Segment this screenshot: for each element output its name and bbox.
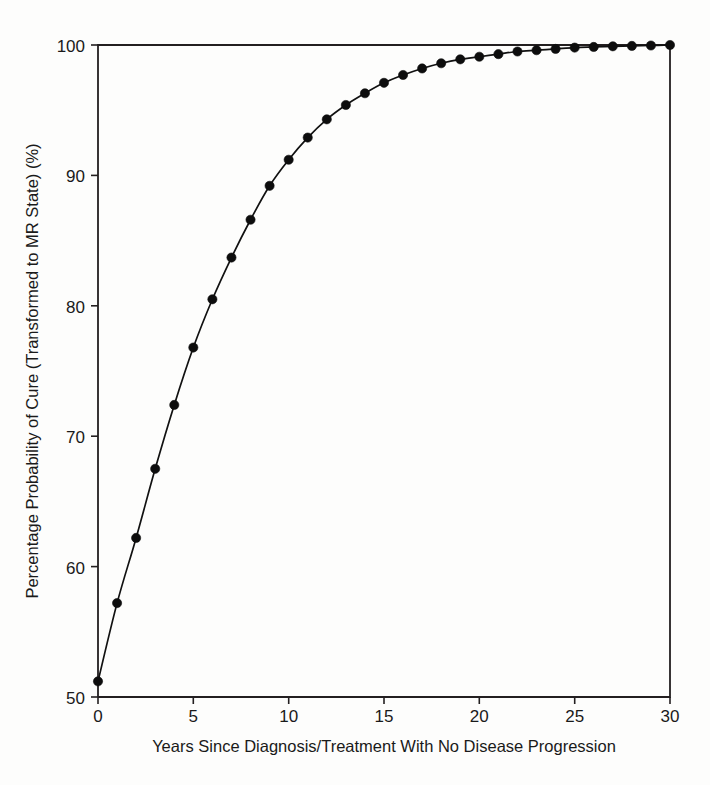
- data-point: [456, 55, 465, 64]
- data-point: [303, 133, 312, 142]
- data-point: [551, 44, 560, 53]
- data-point: [93, 677, 102, 686]
- data-point: [170, 400, 179, 409]
- y-tick-label-100: 100: [57, 37, 85, 56]
- data-point: [589, 42, 598, 51]
- data-point: [265, 181, 274, 190]
- data-point: [246, 215, 255, 224]
- line-chart: 100 90 80 70 60 50 0 5 10 15 20 25 30: [0, 0, 710, 785]
- y-tick-label-80: 80: [66, 298, 85, 317]
- data-point: [418, 64, 427, 73]
- data-point: [208, 295, 217, 304]
- series-markers-probability-of-cure: [93, 40, 674, 686]
- data-point: [322, 115, 331, 124]
- axis-box: [98, 45, 670, 697]
- data-point: [532, 46, 541, 55]
- data-point: [398, 70, 407, 79]
- data-point: [513, 47, 522, 56]
- data-point: [627, 41, 636, 50]
- x-tick-label-20: 20: [470, 707, 489, 726]
- y-axis-ticks: [91, 45, 98, 697]
- x-tick-label-25: 25: [565, 707, 584, 726]
- data-point: [151, 464, 160, 473]
- data-point: [112, 599, 121, 608]
- y-tick-label-90: 90: [66, 167, 85, 186]
- data-point: [665, 40, 674, 49]
- data-point: [189, 343, 198, 352]
- plot-frame: [98, 45, 670, 697]
- y-tick-label-60: 60: [66, 559, 85, 578]
- data-point: [227, 253, 236, 262]
- y-tick-label-50: 50: [66, 689, 85, 708]
- data-point: [341, 100, 350, 109]
- x-axis-title: Years Since Diagnosis/Treatment With No …: [152, 737, 616, 755]
- chart-figure: 100 90 80 70 60 50 0 5 10 15 20 25 30: [0, 0, 710, 785]
- data-point: [379, 78, 388, 87]
- data-point: [494, 50, 503, 59]
- x-tick-label-5: 5: [189, 707, 198, 726]
- x-axis-ticks: [98, 697, 670, 704]
- data-point: [132, 533, 141, 542]
- x-tick-label-30: 30: [661, 707, 680, 726]
- data-point: [437, 59, 446, 68]
- x-axis-tick-labels: 0 5 10 15 20 25 30: [93, 707, 679, 726]
- data-point: [570, 43, 579, 52]
- series-line-probability-of-cure: [98, 45, 670, 681]
- y-axis-title: Percentage Probability of Cure (Transfor…: [23, 143, 41, 598]
- x-tick-label-10: 10: [279, 707, 298, 726]
- data-point: [284, 155, 293, 164]
- y-tick-label-70: 70: [66, 428, 85, 447]
- data-point: [608, 42, 617, 51]
- x-tick-label-15: 15: [375, 707, 394, 726]
- data-point: [475, 52, 484, 61]
- series-group: [93, 40, 674, 686]
- data-point: [646, 41, 655, 50]
- y-axis-tick-labels: 100 90 80 70 60 50: [57, 37, 85, 708]
- data-point: [360, 89, 369, 98]
- x-tick-label-0: 0: [93, 707, 102, 726]
